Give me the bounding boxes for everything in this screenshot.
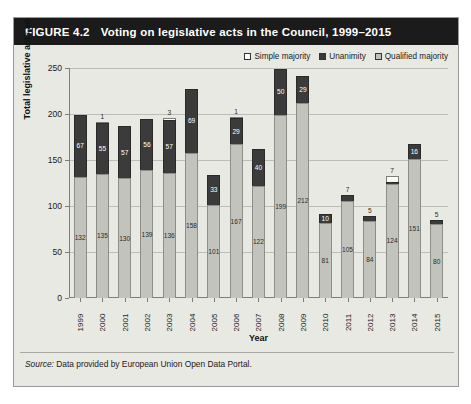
bar-value-label: 29 — [299, 87, 306, 94]
x-tick-mark — [258, 298, 259, 302]
bar-value-label: 33 — [210, 187, 217, 194]
x-tick-mark — [80, 298, 81, 302]
bar-segment-unanimity: 67 — [74, 115, 87, 177]
bar-column-2013[interactable]: 71242013 — [386, 68, 399, 298]
bar-value-label: 57 — [121, 150, 128, 157]
bar-value-label: 101 — [208, 249, 219, 256]
x-tick-label-2007: 2007 — [254, 314, 263, 332]
bar-segment-unanimity: 56 — [140, 119, 153, 171]
bar-value-label: 7 — [346, 187, 350, 194]
bar-segment-qualified: 158 — [185, 153, 198, 298]
bar-segment-qualified: 124 — [386, 184, 399, 298]
legend-entry-unanimity: Unanimity — [319, 52, 365, 61]
x-tick-mark — [102, 298, 103, 302]
bar-segment-unanimity: 10 — [319, 214, 332, 223]
y-tick-label: 200 — [22, 109, 62, 119]
y-tick-label: 100 — [22, 201, 62, 211]
bar-value-label: 212 — [297, 198, 308, 205]
bar-column-2014[interactable]: 161512014 — [408, 68, 421, 298]
legend-entry-simple: Simple majority — [244, 52, 310, 61]
bar-column-2011[interactable]: 71052011 — [341, 68, 354, 298]
legend-entry-qualified: Qualified majority — [375, 52, 448, 61]
bar-segment-unanimity: 55 — [96, 123, 109, 174]
bar-segment-qualified: 199 — [274, 115, 287, 298]
bar-column-2007[interactable]: 401222007 — [252, 68, 265, 298]
bar-column-2000[interactable]: 1551352000 — [96, 68, 109, 298]
plot-wrapper: 050100150200250 671321999155135200057130… — [69, 68, 448, 298]
bar-segment-qualified: 80 — [430, 224, 443, 298]
figure-header: FIGURE 4.2 Voting on legislative acts in… — [14, 18, 458, 45]
x-tick-mark — [303, 298, 304, 302]
x-tick-mark — [370, 298, 371, 302]
bar-value-label: 3 — [167, 110, 171, 117]
bar-column-2010[interactable]: 10812010 — [319, 68, 332, 298]
bar-column-2009[interactable]: 292122009 — [296, 68, 309, 298]
x-tick-mark — [192, 298, 193, 302]
bar-value-label: 7 — [390, 168, 394, 175]
bar-value-label: 5 — [435, 212, 439, 219]
legend-swatch-unanimity-icon — [319, 53, 326, 60]
x-tick-mark — [392, 298, 393, 302]
chart-container: Simple majorityUnanimityQualified majori… — [20, 50, 454, 350]
source-divider — [20, 352, 454, 353]
bar-segment-qualified: 132 — [74, 177, 87, 298]
figure-number: FIGURE 4.2 — [25, 26, 90, 38]
x-tick-label-1999: 1999 — [76, 314, 85, 332]
bar-value-label: 132 — [75, 235, 86, 242]
figure-card: FIGURE 4.2 Voting on legislative acts in… — [13, 17, 459, 387]
bar-value-label: 1 — [101, 114, 105, 121]
x-axis-title: Year — [69, 333, 448, 343]
legend-swatch-qualified-icon — [375, 53, 382, 60]
source-text: Data provided by European Union Open Dat… — [54, 359, 252, 369]
y-tick-label: 0 — [22, 293, 62, 303]
bar-segment-unanimity: 50 — [274, 69, 287, 115]
x-tick-label-2001: 2001 — [120, 314, 129, 332]
bar-column-2006[interactable]: 1291672006 — [230, 68, 243, 298]
bar-value-label: 57 — [166, 144, 173, 151]
figure-title: Voting on legislative acts in the Counci… — [101, 26, 392, 38]
bar-segment-qualified: 101 — [207, 205, 220, 298]
x-tick-label-2008: 2008 — [276, 314, 285, 332]
source-label: Source: — [25, 359, 54, 369]
x-tick-mark — [214, 298, 215, 302]
bar-column-1999[interactable]: 671321999 — [74, 68, 87, 298]
bar-column-2001[interactable]: 571302001 — [118, 68, 131, 298]
bar-value-label: 10 — [322, 216, 329, 223]
y-tick-label: 150 — [22, 155, 62, 165]
y-tick-label: 250 — [22, 63, 62, 73]
bar-value-label: 199 — [275, 204, 286, 211]
bar-value-label: 151 — [409, 226, 420, 233]
bar-series-group: 6713219991551352000571302001561392002357… — [69, 68, 448, 298]
bar-column-2012[interactable]: 5842012 — [363, 68, 376, 298]
chart-legend: Simple majorityUnanimityQualified majori… — [244, 52, 448, 61]
bar-value-label: 50 — [277, 89, 284, 96]
bar-value-label: 105 — [342, 247, 353, 254]
bar-value-label: 84 — [366, 257, 373, 264]
source-note: Source: Data provided by European Union … — [25, 359, 252, 369]
bar-column-2015[interactable]: 5802015 — [430, 68, 443, 298]
bar-value-label: 55 — [99, 146, 106, 153]
bar-segment-unanimity: 57 — [118, 126, 131, 178]
bar-column-2003[interactable]: 3571362003 — [163, 68, 176, 298]
bar-value-label: 124 — [387, 238, 398, 245]
x-tick-label-2011: 2011 — [343, 314, 352, 331]
x-tick-label-2002: 2002 — [142, 314, 151, 332]
bar-segment-unanimity: 69 — [185, 89, 198, 152]
legend-swatch-simple-icon — [244, 53, 251, 60]
bar-segment-qualified: 167 — [230, 144, 243, 298]
bar-column-2004[interactable]: 691582004 — [185, 68, 198, 298]
bar-value-label: 167 — [231, 219, 242, 226]
bar-segment-qualified: 122 — [252, 186, 265, 298]
bar-column-2002[interactable]: 561392002 — [140, 68, 153, 298]
x-tick-label-2009: 2009 — [298, 314, 307, 332]
bar-value-label: 16 — [411, 149, 418, 156]
legend-label: Qualified majority — [385, 52, 448, 61]
bar-column-2008[interactable]: 501992008 — [274, 68, 287, 298]
bar-column-2005[interactable]: 331012005 — [207, 68, 220, 298]
x-tick-mark — [325, 298, 326, 302]
x-tick-mark — [281, 298, 282, 302]
legend-label: Unanimity — [329, 52, 365, 61]
y-tick-mark — [65, 298, 69, 299]
x-tick-label-2005: 2005 — [209, 314, 218, 332]
bar-segment-qualified: 81 — [319, 223, 332, 298]
